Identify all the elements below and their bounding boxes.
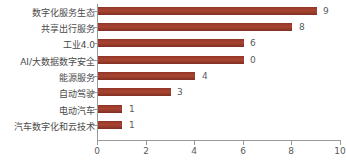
bar xyxy=(98,88,171,96)
category-label: 汽车数字化和云技术 xyxy=(3,123,95,132)
category-label: 共享出行服务 xyxy=(3,25,95,34)
bar xyxy=(98,23,292,31)
bar-value-label: 1 xyxy=(129,105,135,114)
category-label: AI/大数据数字安全 xyxy=(3,58,95,67)
y-axis-tick xyxy=(93,92,97,93)
category-label: 数字化服务生态 xyxy=(3,9,95,18)
x-axis-tick xyxy=(291,141,292,145)
bar-value-label: 9 xyxy=(323,7,329,16)
bar xyxy=(98,72,195,80)
bar xyxy=(98,56,244,64)
x-axis-tick xyxy=(243,141,244,145)
bar xyxy=(98,7,317,15)
x-axis-tick-label: 6 xyxy=(240,147,246,156)
y-axis-tick xyxy=(93,60,97,61)
y-axis-tick xyxy=(93,43,97,44)
y-axis-tick xyxy=(93,76,97,77)
bar-value-label: 8 xyxy=(299,23,305,32)
bar-value-label: 4 xyxy=(202,72,208,81)
x-axis-tick xyxy=(194,141,195,145)
bar-value-label: 0 xyxy=(250,56,256,65)
bar xyxy=(98,39,244,47)
x-axis-line xyxy=(97,140,341,141)
x-axis-tick xyxy=(146,141,147,145)
bar xyxy=(98,121,122,129)
category-label: 能源服务 xyxy=(3,74,95,83)
bar-chart: 数字化服务生态 共享出行服务 工业4.0 AI/大数据数字安全 能源服务 自动驾… xyxy=(0,0,346,166)
y-axis-line xyxy=(97,4,98,140)
x-axis-tick xyxy=(340,141,341,145)
bar-value-label: 6 xyxy=(250,39,256,48)
x-axis-tick xyxy=(97,141,98,145)
x-axis-tick-label: 8 xyxy=(288,147,294,156)
y-axis-tick xyxy=(93,109,97,110)
bar-value-label: 3 xyxy=(177,88,183,97)
y-axis-tick xyxy=(93,27,97,28)
bar xyxy=(98,105,122,113)
y-axis-tick xyxy=(93,125,97,126)
category-label: 电动汽车 xyxy=(3,107,95,116)
x-axis-tick-label: 2 xyxy=(143,147,149,156)
bar-value-label: 1 xyxy=(129,121,135,130)
y-axis-tick xyxy=(93,11,97,12)
x-axis-tick-label: 10 xyxy=(334,147,345,156)
category-label: 工业4.0 xyxy=(3,41,95,50)
category-label: 自动驾驶 xyxy=(3,90,95,99)
x-axis-tick-label: 0 xyxy=(94,147,100,156)
x-axis-tick-label: 4 xyxy=(191,147,197,156)
